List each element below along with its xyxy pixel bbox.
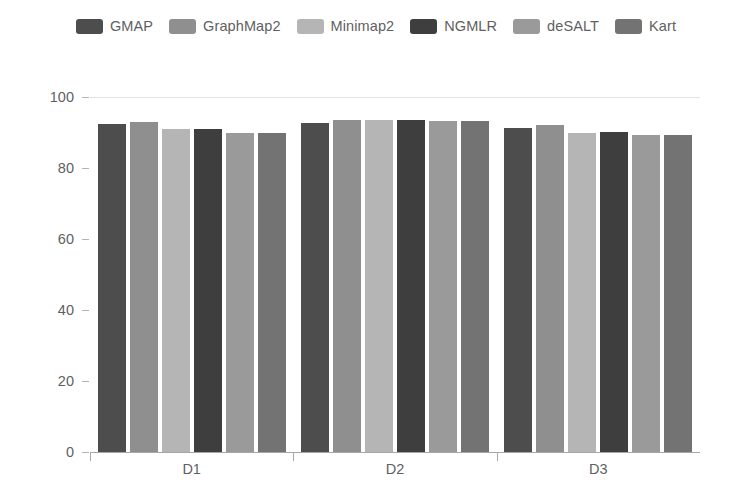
y-axis-tick-mark (82, 239, 89, 240)
legend-label: GraphMap2 (203, 18, 280, 34)
legend-item-ngmlr[interactable]: NGMLR (410, 18, 497, 34)
bar-gmap-d3[interactable] (504, 128, 532, 452)
y-axis-tick-label: 100 (34, 89, 74, 105)
x-axis-tick-mark (293, 453, 294, 461)
bar-kart-d1[interactable] (258, 133, 286, 453)
legend-item-minimap2[interactable]: Minimap2 (297, 18, 395, 34)
x-axis-origin-tick (90, 453, 91, 461)
bar-group-d3 (504, 97, 692, 452)
legend-label: Minimap2 (331, 18, 395, 34)
bar-minimap2-d2[interactable] (365, 120, 393, 452)
y-axis-line (89, 97, 90, 453)
y-axis-labels: 020406080100 (28, 0, 74, 500)
bar-group-d2 (301, 97, 489, 452)
bar-group-d1 (98, 97, 286, 452)
legend-item-desalt[interactable]: deSALT (513, 18, 599, 34)
bar-kart-d2[interactable] (461, 121, 489, 452)
x-axis-tick-label: D2 (386, 461, 405, 477)
bar-desalt-d3[interactable] (632, 135, 660, 452)
bar-minimap2-d3[interactable] (568, 133, 596, 453)
bar-desalt-d2[interactable] (429, 121, 457, 452)
legend-swatch-icon (410, 19, 437, 34)
y-axis-tick-mark (82, 310, 89, 311)
y-axis-tick-mark (82, 381, 89, 382)
bar-kart-d3[interactable] (664, 135, 692, 452)
bar-ngmlr-d2[interactable] (397, 120, 425, 452)
legend-item-kart[interactable]: Kart (615, 18, 676, 34)
y-axis-tick-label: 20 (34, 373, 74, 389)
chart-legend: GMAPGraphMap2Minimap2NGMLRdeSALTKart (0, 18, 752, 34)
bar-ngmlr-d1[interactable] (194, 129, 222, 452)
legend-swatch-icon (76, 19, 103, 34)
bar-ngmlr-d3[interactable] (600, 132, 628, 452)
x-axis-tick-label: D1 (182, 461, 201, 477)
x-axis-line (90, 452, 700, 453)
y-axis-tick-label: 0 (34, 444, 74, 460)
legend-label: Kart (649, 18, 676, 34)
legend-item-graphmap2[interactable]: GraphMap2 (169, 18, 280, 34)
y-axis-tick-label: 40 (34, 302, 74, 318)
bar-gmap-d1[interactable] (98, 124, 126, 452)
plot-area (90, 97, 700, 452)
legend-swatch-icon (169, 19, 196, 34)
bar-graphmap2-d1[interactable] (130, 122, 158, 452)
y-axis-tick-mark (82, 168, 89, 169)
legend-label: GMAP (110, 18, 153, 34)
legend-swatch-icon (513, 19, 540, 34)
x-axis-tick-label: D3 (589, 461, 608, 477)
legend-label: deSALT (547, 18, 599, 34)
legend-swatch-icon (297, 19, 324, 34)
y-axis-tick-mark (82, 452, 89, 453)
y-axis-tick-mark (82, 97, 89, 98)
x-axis-tick-mark (497, 453, 498, 461)
legend-swatch-icon (615, 19, 642, 34)
bar-minimap2-d1[interactable] (162, 129, 190, 452)
bar-chart: GMAPGraphMap2Minimap2NGMLRdeSALTKart 020… (0, 0, 752, 500)
y-axis-tick-label: 80 (34, 160, 74, 176)
bar-desalt-d1[interactable] (226, 133, 254, 453)
legend-item-gmap[interactable]: GMAP (76, 18, 153, 34)
y-axis-tick-label: 60 (34, 231, 74, 247)
bar-graphmap2-d2[interactable] (333, 120, 361, 452)
legend-label: NGMLR (444, 18, 497, 34)
bar-graphmap2-d3[interactable] (536, 125, 564, 452)
bar-gmap-d2[interactable] (301, 123, 329, 452)
